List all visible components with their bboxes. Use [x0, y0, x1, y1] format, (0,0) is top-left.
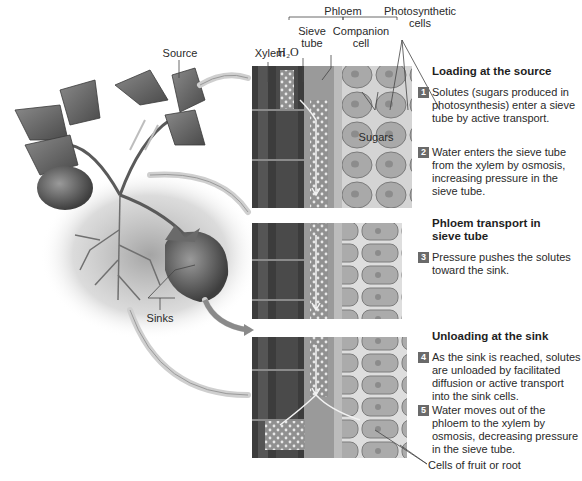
tissue-panels: [252, 66, 412, 458]
step-text: Water moves out of the phloem to the xyl…: [432, 404, 582, 456]
label-sugars: Sugars: [356, 131, 396, 143]
step-text: Water enters the sieve tube from the xyl…: [432, 146, 582, 198]
leaves: [15, 68, 205, 175]
step-number-badge: 3: [418, 252, 429, 263]
step-3: 3 Pressure pushes the solutes toward the…: [418, 251, 582, 279]
label-photosynthetic-cells-line2: cells: [370, 17, 470, 29]
step-text: Pressure pushes the solutes toward the s…: [432, 251, 582, 277]
label-phloem: Phloem: [318, 5, 368, 17]
label-sieve-tube-line1: Sieve: [294, 25, 330, 37]
strawberry-small: [37, 166, 93, 210]
step-number-badge: 2: [418, 147, 429, 158]
label-sinks: Sinks: [138, 312, 182, 324]
label-companion-cell-line2: cell: [331, 37, 391, 49]
step-1: 1 Solutes (sugars produced in photosynth…: [418, 86, 582, 138]
step-5: 5 Water moves out of the phloem to the x…: [418, 404, 582, 458]
section-title-transport-line2: sieve tube: [432, 230, 488, 243]
section-title-unloading: Unloading at the sink: [432, 330, 548, 343]
panel-transport: [252, 223, 402, 319]
label-source: Source: [150, 47, 210, 59]
label-photosynthetic-cells-line1: Photosynthetic: [370, 5, 470, 17]
step-text: As the sink is reached, solutes are unlo…: [432, 351, 582, 403]
label-cells-of-fruit-or-root: Cells of fruit or root: [428, 459, 521, 471]
step-2: 2 Water enters the sieve tube from the x…: [418, 146, 582, 198]
step-number-badge: 4: [418, 352, 429, 363]
section-title-transport-line1: Phloem transport in: [432, 217, 541, 230]
step-number-badge: 1: [418, 87, 429, 98]
step-text: Solutes (sugars produced in photosynthes…: [432, 86, 582, 125]
label-sieve-tube-line2: tube: [294, 37, 330, 49]
step-number-badge: 5: [418, 405, 429, 416]
panel-sink: [252, 337, 407, 458]
section-title-loading: Loading at the source: [432, 65, 552, 78]
step-4: 4 As the sink is reached, solutes are un…: [418, 351, 582, 405]
